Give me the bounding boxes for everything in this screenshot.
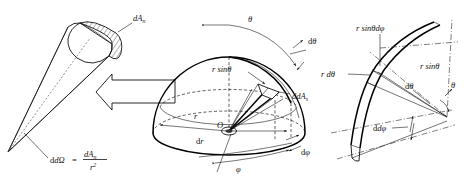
r-sin-theta-ref xyxy=(380,42,458,48)
patch-dA-s xyxy=(258,84,279,99)
label-dA-s: ddAs xyxy=(292,91,309,102)
d-phi-indicator-1 xyxy=(286,135,299,140)
label-d-phi-detail: ddφ xyxy=(373,123,387,133)
base-ref-line-2 xyxy=(337,125,455,159)
polar-axis-detail xyxy=(447,18,452,117)
base-ref-line-1 xyxy=(331,110,452,133)
figure-root: dAn ddΩ = dAn r2 xyxy=(0,0,466,181)
label-dA: dr xyxy=(196,136,204,146)
theta-arc-curve xyxy=(229,25,296,66)
panel-hemisphere: θ dθ r sinθ ddAs r O dr φ dφ xyxy=(153,14,316,174)
label-r: r xyxy=(194,111,198,121)
formula-lhs: ddΩ xyxy=(50,155,65,165)
radial-line-mid xyxy=(378,72,447,117)
r-dtheta-leader xyxy=(348,74,370,75)
cap-label-leader xyxy=(118,23,132,32)
phi-leader xyxy=(217,134,231,172)
radius-to-patch-d xyxy=(229,99,272,131)
label-origin: O xyxy=(217,120,223,130)
cone-body xyxy=(8,23,112,152)
formula-denominator: r2 xyxy=(90,162,96,172)
label-r-sin-theta-detail: r sinθ xyxy=(420,61,440,71)
label-r-d-theta: r dθ xyxy=(321,69,335,79)
strip-top-cap xyxy=(434,22,440,25)
d-phi-indicator-2 xyxy=(289,146,301,151)
label-d-phi: dφ xyxy=(301,147,310,157)
label-r-sin-theta: r sinθ xyxy=(212,64,232,74)
formula-numerator: dAn xyxy=(84,149,96,160)
solid-angle-formula: ddΩ = dAn r2 xyxy=(50,149,107,172)
d-theta-tick xyxy=(290,50,306,54)
phi-arc xyxy=(215,150,289,163)
label-phi: φ xyxy=(236,164,241,174)
origin-point xyxy=(226,129,233,133)
block-arrow-left xyxy=(96,74,175,110)
diagram-canvas: dAn ddΩ = dAn r2 xyxy=(0,0,466,181)
formula-equals: = xyxy=(72,155,77,165)
label-r-sin-theta-d-phi: r sinθdφ xyxy=(356,23,385,33)
label-cap-area: dAn xyxy=(133,13,145,24)
panel-detail: r sinθdφ r dθ r sinθ dθ θ ddφ xyxy=(321,18,458,161)
d-theta-indicator-2 xyxy=(297,62,304,70)
label-theta-detail: θ xyxy=(451,80,455,90)
d-phi-leader xyxy=(392,127,408,128)
label-theta: θ xyxy=(248,14,252,24)
label-d-theta: dθ xyxy=(308,36,316,46)
dA-s-leader xyxy=(279,92,290,94)
strip-bottom-cap xyxy=(351,145,360,148)
formula-leader-line xyxy=(24,133,48,158)
label-d-theta-detail: dθ xyxy=(405,81,413,91)
r-sin-theta-leader xyxy=(248,72,265,84)
d-theta-indicator-1 xyxy=(293,40,303,48)
